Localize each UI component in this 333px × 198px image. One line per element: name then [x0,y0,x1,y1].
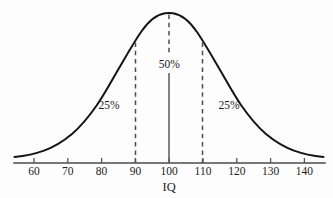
tick-label-130: 130 [262,165,280,177]
annotation-left-25-percent: 25% [98,99,120,111]
x-axis-title: IQ [163,180,176,194]
tick-label-120: 120 [228,165,246,177]
annotation-right-25-percent: 25% [218,99,240,111]
iq-distribution-figure: 60 70 80 90 100 110 120 130 140 IQ 25% 5… [0,0,333,198]
tick-label-140: 140 [296,165,314,177]
tick-label-110: 110 [195,165,212,177]
tick-label-70: 70 [62,165,74,177]
chart-canvas: 60 70 80 90 100 110 120 130 140 IQ 25% 5… [0,0,333,198]
annotation-center-50-percent: 50% [159,58,181,70]
tick-label-60: 60 [28,165,40,177]
tick-label-80: 80 [96,165,108,177]
tick-label-90: 90 [130,165,142,177]
tick-label-100: 100 [161,165,179,177]
x-axis-tick-labels: 60 70 80 90 100 110 120 130 140 [28,165,313,177]
